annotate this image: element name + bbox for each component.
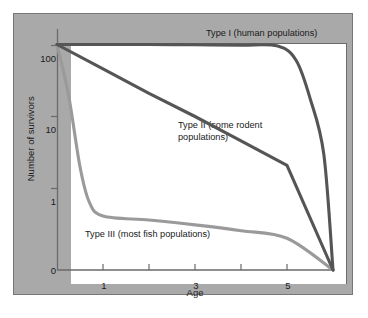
curve-type-ii xyxy=(57,45,333,271)
figure-container: 100 10 1 0 1 3 5 Number of survivors Age… xyxy=(0,0,368,318)
curve-type-i xyxy=(57,44,333,270)
curves-layer xyxy=(0,0,368,318)
curve-type-iii xyxy=(57,45,333,271)
